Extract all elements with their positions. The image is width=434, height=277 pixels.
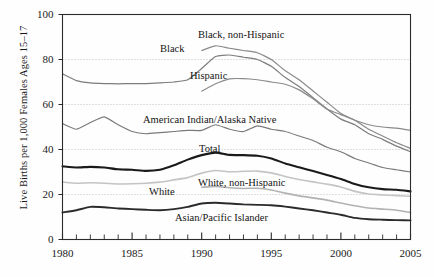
x-axis-label: 1985 xyxy=(110,247,154,259)
y-axis-label: 20 xyxy=(24,188,54,200)
teen-birth-rate-line-chart: Live Births per 1,000 Females Ages 15–17… xyxy=(0,0,434,277)
y-axis-label: 100 xyxy=(24,8,54,20)
x-axis-label: 2000 xyxy=(319,247,363,259)
series-annotation-label: Black, non-Hispanic xyxy=(198,29,284,40)
y-axis-label: 80 xyxy=(24,53,54,65)
series-annotation-label: Asian/Pacific Islander xyxy=(175,212,268,223)
x-axis-label: 1995 xyxy=(249,247,293,259)
x-axis-label: 1990 xyxy=(180,247,224,259)
y-axis-label: 40 xyxy=(24,143,54,155)
series-annotation-label: White, non-Hispanic xyxy=(198,177,285,188)
series-annotation-label: White xyxy=(149,186,175,197)
series-annotation-label: Black xyxy=(160,43,185,54)
x-axis-label: 2005 xyxy=(389,247,433,259)
chart-plot-area xyxy=(0,0,434,277)
series-annotation-label: Total xyxy=(199,143,220,154)
series-line xyxy=(63,117,411,172)
y-tick-marks-group xyxy=(59,15,63,240)
x-tick-marks-group xyxy=(63,233,411,240)
y-axis-label: 60 xyxy=(24,98,54,110)
series-annotation-label: American Indian/Alaska Native xyxy=(143,114,277,125)
series-annotation-label: Hispanic xyxy=(190,70,227,81)
y-axis-label: 0 xyxy=(24,233,54,245)
series-line xyxy=(63,55,411,152)
series-line xyxy=(202,46,411,149)
x-axis-label: 1980 xyxy=(41,247,85,259)
